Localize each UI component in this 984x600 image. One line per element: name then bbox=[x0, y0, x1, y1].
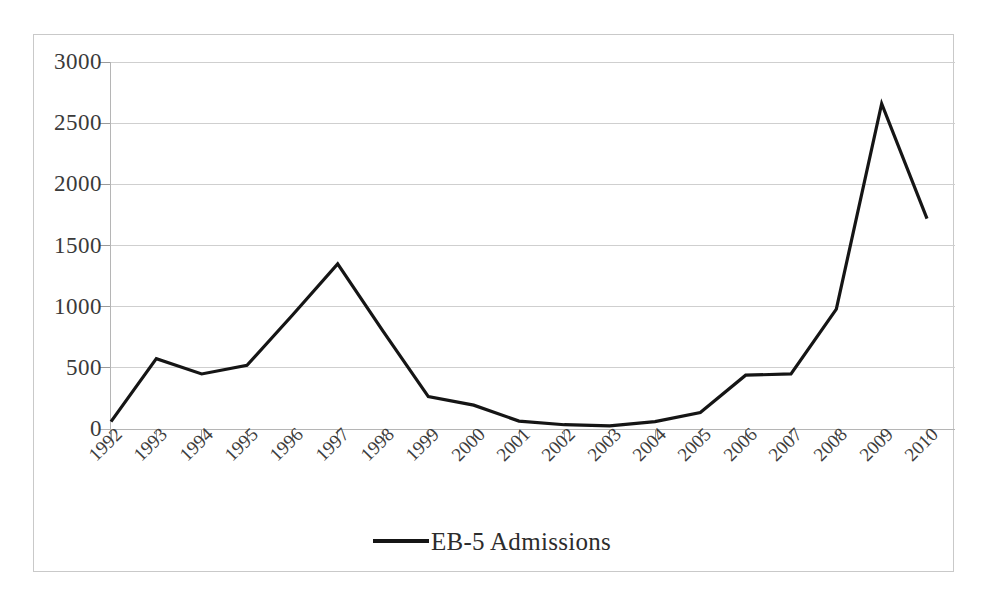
x-tick-label-2010: 2010 bbox=[901, 424, 941, 464]
x-tick-label-2002: 2002 bbox=[538, 424, 578, 464]
x-tick-label-2001: 2001 bbox=[493, 424, 533, 464]
x-tick-label-1997: 1997 bbox=[312, 424, 352, 464]
x-tick-label-2008: 2008 bbox=[810, 424, 850, 464]
x-tick-label-2006: 2006 bbox=[720, 424, 760, 464]
legend-entry-label: EB-5 Admissions bbox=[431, 529, 611, 554]
x-tick-label-2003: 2003 bbox=[584, 424, 624, 464]
x-tick-label-1994: 1994 bbox=[176, 424, 216, 464]
x-tick-label-1996: 1996 bbox=[266, 424, 306, 464]
x-tick-label-1993: 1993 bbox=[130, 424, 170, 464]
x-tick-label-1998: 1998 bbox=[357, 424, 397, 464]
chart-figure: 050010001500200025003000 199219931994199… bbox=[0, 0, 984, 600]
x-axis-tick-labels: 1992199319941995199619971998199920002001… bbox=[0, 0, 984, 600]
x-tick-label-2004: 2004 bbox=[629, 424, 669, 464]
x-tick-label-2000: 2000 bbox=[448, 424, 488, 464]
x-tick-label-2007: 2007 bbox=[765, 424, 805, 464]
x-tick-label-2005: 2005 bbox=[674, 424, 714, 464]
x-tick-label-1995: 1995 bbox=[221, 424, 261, 464]
x-tick-label-1999: 1999 bbox=[402, 424, 442, 464]
x-tick-label-2009: 2009 bbox=[856, 424, 896, 464]
line-swatch-icon bbox=[373, 539, 429, 543]
chart-legend: EB-5 Admissions bbox=[0, 521, 984, 561]
x-tick-label-1992: 1992 bbox=[85, 424, 125, 464]
